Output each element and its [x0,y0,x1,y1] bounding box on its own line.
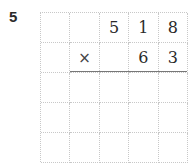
multiplication-grid: 5 1 8 × 6 3 [40,12,187,162]
answer-cell[interactable] [129,103,158,133]
grid-cell[interactable] [70,13,99,43]
answer-cell[interactable] [100,133,129,163]
multiplier-digit-ones: 3 [159,43,188,73]
grid-cell[interactable] [41,13,70,43]
answer-cell[interactable] [129,73,158,103]
answer-cell[interactable] [70,73,99,103]
answer-cell[interactable] [100,73,129,103]
answer-cell[interactable] [70,133,99,163]
multiplicand-digit-ones: 8 [159,13,188,43]
answer-cell[interactable] [159,133,188,163]
multiplicand-digit-hundreds: 5 [100,13,129,43]
answer-cell[interactable] [41,73,70,103]
multiply-sign-icon: × [70,43,99,73]
answer-cell[interactable] [159,73,188,103]
grid-cell[interactable] [41,43,70,73]
answer-cell[interactable] [159,103,188,133]
multiplier-digit-tens: 6 [129,43,158,73]
problem-number: 5 [9,9,17,24]
answer-cell[interactable] [41,133,70,163]
answer-cell[interactable] [41,103,70,133]
answer-cell[interactable] [100,103,129,133]
multiplicand-digit-tens: 1 [129,13,158,43]
grid-cell[interactable] [100,43,129,73]
multiplication-rule-line [70,71,187,72]
answer-cell[interactable] [129,133,158,163]
answer-cell[interactable] [70,103,99,133]
